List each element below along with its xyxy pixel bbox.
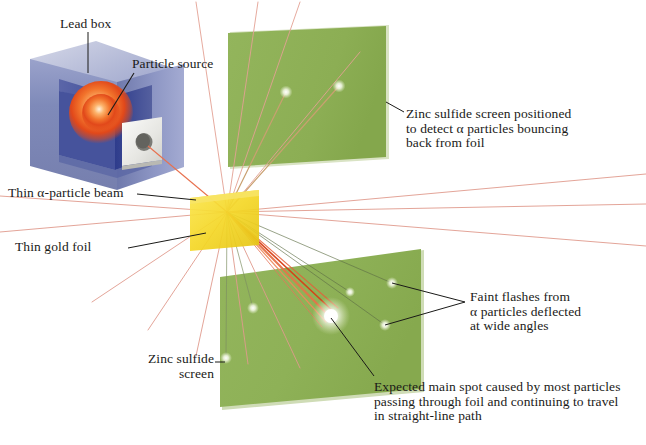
label-zinc-sulfide-backscatter: Zinc sulfide screen positioned to detect… — [406, 107, 642, 151]
upper-zinc-sulfide-screen — [228, 25, 389, 169]
ray-up-3 — [196, 2, 227, 212]
gold-foil — [190, 190, 259, 251]
flash-lower-5 — [345, 287, 355, 297]
label-thin-gold-foil: Thin gold foil — [15, 240, 91, 255]
leader-alpha-beam — [137, 194, 196, 200]
label-faint-flashes: Faint flashes from α particles deflected… — [470, 290, 640, 334]
label-expected-main-spot: Expected main spot caused by most partic… — [374, 380, 646, 424]
ray-right-1 — [227, 174, 646, 212]
main-spot-core — [324, 309, 338, 323]
flash-lower-1 — [247, 302, 259, 314]
label-zinc-sulfide-screen: Zinc sulfide screen — [120, 352, 214, 381]
aperture-plate — [122, 117, 162, 170]
particle-source-core — [82, 94, 120, 132]
ray-right-3 — [227, 212, 646, 246]
flash-upper-2 — [333, 80, 346, 93]
label-alpha-particle-beam: Thin α-particle beam — [8, 186, 124, 201]
ray-right-2 — [227, 204, 646, 212]
rutherford-experiment-figure: Lead box Particle source Thin α-particle… — [0, 0, 646, 445]
label-lead-box: Lead box — [60, 17, 111, 32]
flash-upper-1 — [280, 86, 293, 99]
label-particle-source: Particle source — [132, 57, 213, 72]
